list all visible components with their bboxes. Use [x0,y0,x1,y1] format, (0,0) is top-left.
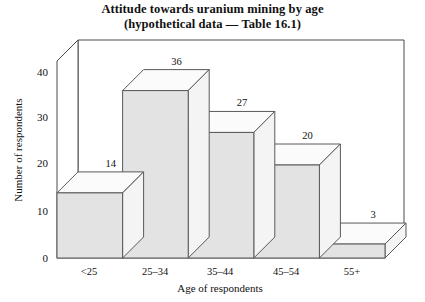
bar-side-face [254,111,275,258]
y-axis-ticks: 40 30 20 10 0 [37,66,49,264]
y-tick-label: 30 [37,111,49,123]
y-tick-label: 10 [37,205,49,217]
x-axis-title: Age of respondents [177,282,263,294]
bar-value-label: 36 [171,56,182,67]
y-tick-label: 20 [37,157,49,169]
y-tick-label: 40 [37,66,49,78]
bar-value-label: 14 [106,158,117,169]
bar-chart-plot: 40 30 20 10 0 Number of respondents 3202… [0,0,425,302]
x-category-label: 35–44 [207,266,234,277]
bar-value-label: 27 [237,97,248,108]
x-category-label: <25 [81,266,97,277]
bar-side-face [188,70,209,258]
x-category-label: 45–54 [273,266,300,277]
chart-container: Attitude towards uranium mining by age (… [0,0,425,302]
y-tick-label: 0 [43,252,49,264]
y-axis-title: Number of respondents [12,98,24,201]
bar-value-label: 20 [302,130,313,141]
x-category-label: 55+ [344,266,361,277]
x-axis-categories: <25 25–34 35–44 45–54 55+ [81,266,361,277]
bar-value-label: 3 [371,209,376,220]
x-category-label: 25–34 [142,266,169,277]
bar-front-face [57,193,123,258]
